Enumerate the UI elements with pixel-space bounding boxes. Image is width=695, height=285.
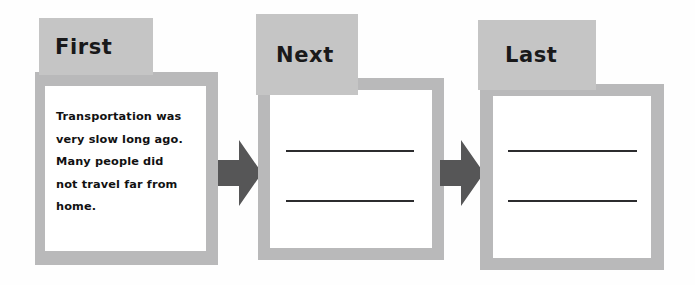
card-last-inner: [493, 96, 651, 258]
card-next-write-line-2: [286, 200, 414, 202]
card-next-tab[interactable]: Next: [256, 14, 358, 95]
arrow-next-to-last: [439, 139, 485, 207]
card-last-tab-label: Last: [505, 43, 558, 67]
card-first-tab-label: First: [55, 35, 112, 59]
card-first-tab[interactable]: First: [39, 18, 153, 75]
card-first-body-text: Transportation was very slow long ago. M…: [56, 106, 202, 219]
card-next-inner: [270, 90, 432, 248]
card-last-tab[interactable]: Last: [478, 20, 596, 90]
card-next-write-line-1: [286, 150, 414, 152]
card-last-write-line-2: [508, 200, 637, 202]
card-last-write-line-1: [508, 150, 637, 152]
worksheet-canvas: First Transportation was very slow long …: [0, 0, 695, 285]
card-next-tab-label: Next: [276, 43, 334, 67]
arrow-first-to-next: [217, 139, 263, 207]
